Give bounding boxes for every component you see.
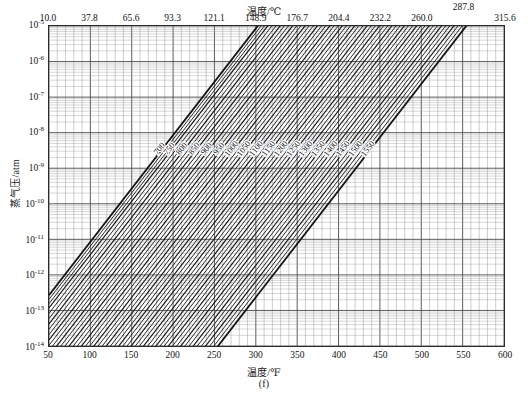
y-tick-1e-7: 10-7: [2, 92, 44, 102]
y-tick-1e-10: 10-10: [2, 199, 44, 209]
bottom-tick-150: 150: [124, 350, 138, 360]
top-tick-204.4: 204.4: [328, 13, 349, 23]
bottom-tick-50: 50: [43, 350, 53, 360]
bottom-tick-200: 200: [166, 350, 180, 360]
top-tick-37.8: 37.8: [81, 13, 98, 23]
bottom-tick-350: 350: [290, 350, 304, 360]
y-tick-1e-11: 10-11: [2, 235, 44, 245]
y-tick-1e-9: 10-9: [2, 163, 44, 173]
contour-label-1550: 1550: [358, 139, 376, 158]
top-tick-121.1: 121.1: [203, 13, 224, 23]
y-tick-1e-12: 10-12: [2, 270, 44, 280]
bottom-tick-600: 600: [498, 350, 512, 360]
bottom-tick-300: 300: [249, 350, 263, 360]
vapor-pressure-chart: 温度/℃ 10.037.865.693.3121.1148.9176.7204.…: [0, 0, 528, 396]
figure-caption: (f): [0, 378, 528, 389]
bottom-tick-250: 250: [207, 350, 221, 360]
y-axis-title: 蒸气压/atm: [7, 144, 22, 224]
bottom-tick-400: 400: [332, 350, 346, 360]
y-tick-1e-13: 10-13: [2, 306, 44, 316]
plot-canvas: 7007508008509009501000105011001150120012…: [49, 26, 504, 346]
y-tick-1e-14: 10-14: [2, 342, 44, 352]
top-tick-232.2: 232.2: [370, 13, 391, 23]
top-tick-148.9: 148.9: [245, 13, 266, 23]
plot-area: 7007508008509009501000105011001150120012…: [48, 25, 505, 347]
bottom-axis-title: 温度/℉: [0, 364, 528, 379]
top-tick-93.3: 93.3: [164, 13, 181, 23]
bottom-tick-500: 500: [415, 350, 429, 360]
y-tick-1e-6: 10-6: [2, 56, 44, 66]
contour-lines: [49, 26, 504, 346]
top-tick-260.0: 260.0: [411, 13, 432, 23]
bottom-tick-100: 100: [82, 350, 96, 360]
top-tick-176.7: 176.7: [287, 13, 308, 23]
top-tick-287.8: 287.8: [453, 2, 474, 12]
y-tick-1e-8: 10-8: [2, 127, 44, 137]
y-tick-1e-5: 10-5: [2, 20, 44, 30]
top-tick-315.6: 315.6: [494, 13, 515, 23]
top-tick-65.6: 65.6: [123, 13, 140, 23]
bottom-tick-550: 550: [456, 350, 470, 360]
bottom-tick-450: 450: [373, 350, 387, 360]
